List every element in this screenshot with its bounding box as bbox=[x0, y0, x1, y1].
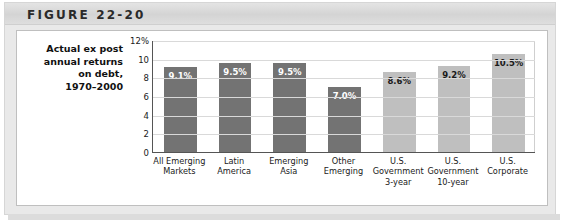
y-axis-tick: 10 bbox=[138, 55, 149, 65]
x-axis-category-label: U.S.Government3-year bbox=[371, 156, 426, 187]
figure-drop-shadow bbox=[8, 214, 560, 220]
x-axis-label-line: 3-year bbox=[371, 177, 426, 187]
bar-value-label: 9.1% bbox=[164, 71, 197, 81]
x-axis-label-line: All Emerging bbox=[152, 156, 207, 166]
y-axis-tick: 6 bbox=[144, 92, 149, 102]
chart-caption: Actual ex postannual returnson debt,1970… bbox=[23, 43, 123, 93]
x-axis-category-labels: All EmergingMarketsLatinAmericaEmergingA… bbox=[152, 156, 535, 200]
bar-chart: 12%1086420 9.1%9.5%9.5%7.0%8.6%9.2%10.5%… bbox=[125, 41, 535, 201]
bar: 9.5% bbox=[273, 63, 306, 152]
y-axis-tick: 12% bbox=[130, 36, 149, 46]
bar: 9.1% bbox=[164, 67, 197, 152]
figure-container: FIGURE 22-20 Actual ex postannual return… bbox=[0, 0, 565, 224]
x-axis-label-line: Corporate bbox=[480, 166, 535, 176]
x-axis-category-label: EmergingAsia bbox=[261, 156, 316, 177]
caption-line: on debt, bbox=[23, 68, 123, 81]
x-axis-label-line: 10-year bbox=[426, 177, 481, 187]
x-axis-label-line: Other bbox=[316, 156, 371, 166]
y-axis-tick: 8 bbox=[144, 73, 149, 83]
y-axis-tick: 0 bbox=[144, 148, 149, 158]
x-axis-category-label: All EmergingMarkets bbox=[152, 156, 207, 177]
y-axis-tick: 2 bbox=[144, 129, 149, 139]
x-axis-label-line: Government bbox=[426, 166, 481, 176]
bar: 9.5% bbox=[219, 63, 252, 152]
x-axis-label-line: U.S. bbox=[371, 156, 426, 166]
caption-line: annual returns bbox=[23, 56, 123, 69]
bar-value-label: 9.5% bbox=[219, 67, 252, 77]
bar-value-label: 7.0% bbox=[328, 91, 361, 101]
x-axis-category-label: OtherEmerging bbox=[316, 156, 371, 177]
x-axis-category-label: U.S.Government10-year bbox=[426, 156, 481, 187]
x-axis-label-line: Latin bbox=[207, 156, 262, 166]
x-axis-label-line: America bbox=[207, 166, 262, 176]
x-axis-label-line: Emerging bbox=[316, 166, 371, 176]
x-axis-category-label: LatinAmerica bbox=[207, 156, 262, 177]
x-axis-label-line: U.S. bbox=[426, 156, 481, 166]
x-axis-label-line: Markets bbox=[152, 166, 207, 176]
chart-panel: Actual ex postannual returnson debt,1970… bbox=[16, 30, 548, 206]
gridline bbox=[153, 97, 535, 98]
gridline bbox=[153, 41, 535, 42]
bar: 10.5% bbox=[492, 54, 525, 152]
x-axis-label-line: U.S. bbox=[480, 156, 535, 166]
bar: 8.6% bbox=[383, 72, 416, 152]
figure-title: FIGURE 22-20 bbox=[27, 8, 146, 22]
figure-header-band: FIGURE 22-20 bbox=[5, 3, 555, 25]
y-axis-tick-labels: 12%1086420 bbox=[125, 41, 149, 153]
gridline bbox=[153, 116, 535, 117]
bar-value-label: 9.5% bbox=[273, 67, 306, 77]
gridline bbox=[153, 60, 535, 61]
gridline bbox=[153, 134, 535, 135]
x-axis-category-label: U.S.Corporate bbox=[480, 156, 535, 177]
y-axis-tick: 4 bbox=[144, 111, 149, 121]
bar-value-label: 8.6% bbox=[383, 76, 416, 86]
gridline bbox=[153, 78, 535, 79]
caption-line: 1970–2000 bbox=[23, 81, 123, 94]
plot-area: 9.1%9.5%9.5%7.0%8.6%9.2%10.5% bbox=[152, 41, 535, 153]
x-axis-label-line: Government bbox=[371, 166, 426, 176]
caption-line: Actual ex post bbox=[23, 43, 123, 56]
x-axis-label-line: Asia bbox=[261, 166, 316, 176]
x-axis-label-line: Emerging bbox=[261, 156, 316, 166]
